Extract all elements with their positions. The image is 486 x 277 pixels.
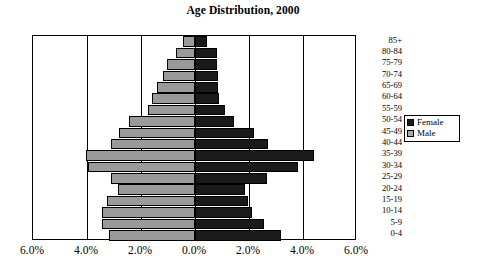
bar-female-25-29 (195, 173, 267, 184)
bar-row (33, 36, 355, 47)
bar-male-25-29 (111, 173, 195, 184)
bar-female-85+ (195, 36, 207, 47)
age-group-label-15-19: 15-19 (362, 194, 402, 205)
age-group-label-65-69: 65-69 (362, 80, 402, 91)
age-group-label-5-9: 5-9 (362, 217, 402, 228)
bar-row (33, 82, 355, 93)
bar-female-50-54 (195, 116, 234, 127)
x-axis-tick-label: 6.0% (334, 244, 378, 256)
age-group-label-30-34: 30-34 (362, 160, 402, 171)
age-group-label-60-64: 60-64 (362, 91, 402, 102)
bar-female-20-24 (195, 184, 245, 195)
bar-male-75-79 (167, 59, 195, 70)
bar-male-60-64 (152, 93, 195, 104)
age-group-label-85+: 85+ (362, 35, 402, 46)
bar-male-70-74 (163, 71, 195, 82)
bar-female-10-14 (195, 207, 252, 218)
bar-male-0-4 (109, 230, 195, 241)
bar-female-80-84 (195, 48, 217, 59)
chart-legend: Female Male (404, 115, 460, 142)
legend-entry-female[interactable]: Female (407, 117, 457, 128)
bar-male-20-24 (118, 184, 195, 195)
bar-male-80-84 (176, 48, 195, 59)
x-axis-tick-label: 4.0% (280, 244, 324, 256)
bar-female-30-34 (195, 162, 298, 173)
bar-row (33, 104, 355, 115)
plot-area (32, 35, 356, 240)
female-swatch-icon (407, 119, 414, 126)
bar-row (33, 195, 355, 206)
bar-male-15-19 (107, 196, 195, 207)
age-group-label-25-29: 25-29 (362, 171, 402, 182)
bar-row (33, 93, 355, 104)
x-axis-tick-label: 4.0% (64, 244, 108, 256)
bar-male-45-49 (119, 128, 195, 139)
legend-label-female: Female (417, 118, 444, 127)
bar-female-60-64 (195, 93, 219, 104)
bar-female-75-79 (195, 59, 217, 70)
age-group-label-50-54: 50-54 (362, 114, 402, 125)
bar-row (33, 116, 355, 127)
bar-female-5-9 (195, 219, 264, 230)
male-swatch-icon (407, 130, 414, 137)
bar-female-15-19 (195, 196, 248, 207)
bar-row (33, 127, 355, 138)
bar-row (33, 59, 355, 70)
bar-female-45-49 (195, 128, 254, 139)
age-group-label-0-4: 0-4 (362, 228, 402, 239)
bar-female-35-39 (195, 150, 314, 161)
age-group-label-35-39: 35-39 (362, 148, 402, 159)
bar-female-55-59 (195, 105, 225, 116)
age-group-label-75-79: 75-79 (362, 57, 402, 68)
age-group-label-10-14: 10-14 (362, 205, 402, 216)
bar-row (33, 173, 355, 184)
bar-male-50-54 (129, 116, 195, 127)
age-group-label-80-84: 80-84 (362, 46, 402, 57)
x-axis-tick-label: 6.0% (10, 244, 54, 256)
age-group-label-55-59: 55-59 (362, 103, 402, 114)
bar-row (33, 47, 355, 58)
legend-entry-male[interactable]: Male (407, 128, 457, 139)
bar-female-0-4 (195, 230, 281, 241)
x-axis-tick-label: 0.0% (172, 244, 216, 256)
age-group-label-45-49: 45-49 (362, 126, 402, 137)
bar-male-5-9 (102, 219, 195, 230)
bar-row (33, 161, 355, 172)
age-group-label-40-44: 40-44 (362, 137, 402, 148)
bar-row (33, 207, 355, 218)
bar-male-30-34 (88, 162, 195, 173)
bar-row (33, 139, 355, 150)
bar-row (33, 184, 355, 195)
x-axis-tick-label: 2.0% (118, 244, 162, 256)
bar-female-70-74 (195, 71, 218, 82)
age-group-label-20-24: 20-24 (362, 183, 402, 194)
bar-male-55-59 (148, 105, 195, 116)
bar-row (33, 70, 355, 81)
bar-row (33, 150, 355, 161)
population-pyramid-chart: Age Distribution, 2000 Female Male 85+80… (0, 0, 486, 277)
bar-male-40-44 (111, 139, 195, 150)
bar-male-85+ (183, 36, 195, 47)
legend-label-male: Male (417, 129, 436, 138)
bar-male-65-69 (157, 82, 195, 93)
bar-male-10-14 (102, 207, 195, 218)
bar-row (33, 218, 355, 229)
age-group-label-70-74: 70-74 (362, 69, 402, 80)
bar-male-35-39 (86, 150, 195, 161)
bar-female-40-44 (195, 139, 268, 150)
bar-row (33, 230, 355, 241)
bar-female-65-69 (195, 82, 218, 93)
x-axis-tick-label: 2.0% (226, 244, 270, 256)
chart-title: Age Distribution, 2000 (0, 4, 486, 16)
